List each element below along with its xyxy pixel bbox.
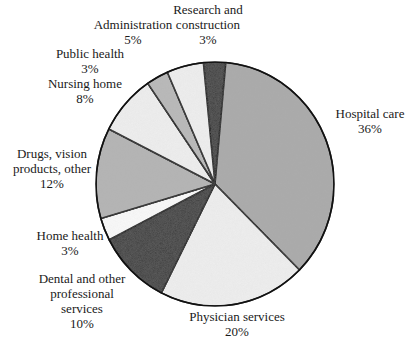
pie-slices	[96, 62, 334, 306]
slice-label-line: Nursing home	[48, 76, 122, 91]
slice-label-line: professional	[50, 286, 114, 301]
slice-label-line: Physician services	[189, 309, 285, 324]
slice-label-line: construction	[176, 17, 241, 32]
slice-label-research-and: Research andconstruction3%	[173, 2, 243, 47]
slice-label-physician-services: Physician services20%	[189, 309, 285, 339]
slice-percent: 3%	[199, 32, 217, 47]
slice-label-home-health: Home health3%	[37, 228, 104, 258]
slice-label-line: Administration	[94, 17, 173, 32]
slice-percent: 5%	[124, 32, 142, 47]
slice-percent: 8%	[76, 91, 94, 106]
slice-label-line: products, other	[13, 161, 92, 176]
slice-percent: 3%	[61, 243, 79, 258]
slice-percent: 20%	[225, 324, 249, 339]
slice-label-line: Home health	[37, 228, 104, 243]
slice-percent: 3%	[81, 61, 99, 76]
slice-label-line: Research and	[173, 2, 243, 17]
slice-label-public-health: Public health3%	[56, 46, 125, 76]
slice-percent: 12%	[40, 176, 64, 191]
pie-chart: Research andconstruction3%Hospital care3…	[0, 0, 418, 352]
slice-label-line: Public health	[56, 46, 125, 61]
slice-percent: 10%	[70, 316, 94, 331]
slice-label-administration: Administration5%	[94, 17, 173, 47]
slice-percent: 36%	[358, 121, 382, 136]
slice-label-line: services	[61, 301, 103, 316]
slice-label-line: Dental and other	[39, 271, 126, 286]
slice-label-dental-and-other: Dental and otherprofessionalservices10%	[39, 271, 126, 331]
slice-label-drugs-vision: Drugs, visionproducts, other12%	[13, 146, 92, 191]
slice-label-hospital-care: Hospital care36%	[336, 106, 405, 136]
slice-label-nursing-home: Nursing home8%	[48, 76, 122, 106]
slice-label-line: Hospital care	[336, 106, 405, 121]
slice-label-line: Drugs, vision	[17, 146, 88, 161]
